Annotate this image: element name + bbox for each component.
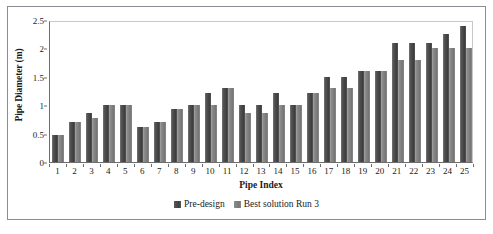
- x-tick-label: 14: [273, 166, 282, 176]
- bar-group: [375, 22, 387, 162]
- x-tick-label: 7: [157, 166, 162, 176]
- bar-group: [460, 22, 472, 162]
- bar-group: [392, 22, 404, 162]
- x-tick-mark: [117, 164, 118, 167]
- x-tick-mark: [253, 164, 254, 167]
- x-tick-mark: [439, 164, 440, 167]
- bar-best-solution: [245, 113, 251, 162]
- x-tick-mark: [303, 164, 304, 167]
- bar-group: [239, 22, 251, 162]
- bar-best-solution: [279, 105, 285, 162]
- x-tick-mark: [473, 164, 474, 167]
- bar-group: [120, 22, 132, 162]
- bar-best-solution: [126, 105, 132, 162]
- bar-best-solution: [75, 122, 81, 162]
- x-tick-label: 20: [375, 166, 384, 176]
- x-tick-mark: [100, 164, 101, 167]
- bar-best-solution: [347, 88, 353, 162]
- y-tick-label: 2.5: [33, 16, 44, 26]
- bar-group: [256, 22, 268, 162]
- legend-swatch-icon: [234, 201, 241, 208]
- bar-best-solution: [432, 48, 438, 162]
- bar-best-solution: [92, 118, 98, 162]
- bar-group: [86, 22, 98, 162]
- x-tick-label: 3: [89, 166, 94, 176]
- x-tick-mark: [456, 164, 457, 167]
- x-tick-label: 1: [55, 166, 60, 176]
- x-tick-mark: [219, 164, 220, 167]
- x-tick-label: 23: [426, 166, 435, 176]
- x-tick-mark: [388, 164, 389, 167]
- legend-swatch-icon: [174, 201, 181, 208]
- bar-best-solution: [466, 48, 472, 162]
- x-tick-label: 2: [72, 166, 77, 176]
- chart-legend: Pre-designBest solution Run 3: [0, 199, 493, 209]
- bar-best-solution: [143, 127, 149, 162]
- x-tick-label: 9: [191, 166, 196, 176]
- bar-series-container: [50, 22, 472, 162]
- x-tick-mark: [151, 164, 152, 167]
- bar-group: [273, 22, 285, 162]
- x-tick-label: 11: [223, 166, 232, 176]
- bar-group: [341, 22, 353, 162]
- bar-best-solution: [364, 71, 370, 162]
- x-tick-mark: [371, 164, 372, 167]
- x-tick-mark: [49, 164, 50, 167]
- x-tick-label: 13: [257, 166, 266, 176]
- x-tick-mark: [337, 164, 338, 167]
- bar-group: [222, 22, 234, 162]
- x-tick-label: 16: [307, 166, 316, 176]
- bar-best-solution: [262, 113, 268, 162]
- y-tick-label: 1.5: [33, 73, 44, 83]
- bar-group: [188, 22, 200, 162]
- x-tick-label: 19: [358, 166, 367, 176]
- bar-best-solution: [177, 109, 183, 162]
- bar-group: [324, 22, 336, 162]
- x-tick-mark: [134, 164, 135, 167]
- bar-group: [103, 22, 115, 162]
- bar-best-solution: [296, 105, 302, 162]
- x-tick-label: 17: [324, 166, 333, 176]
- x-tick-label: 25: [460, 166, 469, 176]
- bar-best-solution: [313, 93, 319, 162]
- bar-best-solution: [415, 60, 421, 162]
- bar-best-solution: [160, 122, 166, 162]
- y-axis-ticks: 00.511.522.5: [20, 21, 47, 163]
- y-tick-mark: [44, 77, 47, 78]
- legend-label: Pre-design: [184, 199, 225, 209]
- legend-item: Best solution Run 3: [234, 199, 319, 209]
- bar-best-solution: [211, 105, 217, 162]
- x-tick-mark: [236, 164, 237, 167]
- x-tick-mark: [185, 164, 186, 167]
- bar-best-solution: [194, 105, 200, 162]
- y-tick-mark: [44, 21, 47, 22]
- bar-group: [409, 22, 421, 162]
- legend-label: Best solution Run 3: [244, 199, 319, 209]
- x-tick-label: 18: [341, 166, 350, 176]
- x-tick-label: 4: [106, 166, 111, 176]
- bar-best-solution: [381, 71, 387, 162]
- bar-group: [290, 22, 302, 162]
- bar-group: [358, 22, 370, 162]
- bar-best-solution: [449, 48, 455, 162]
- x-tick-label: 10: [206, 166, 215, 176]
- x-tick-label: 21: [392, 166, 401, 176]
- x-tick-mark: [320, 164, 321, 167]
- y-tick-mark: [44, 49, 47, 50]
- x-tick-mark: [286, 164, 287, 167]
- x-tick-label: 22: [409, 166, 418, 176]
- x-axis-title: Pipe Index: [49, 180, 473, 190]
- y-tick-label: 0.5: [33, 130, 44, 140]
- bar-group: [171, 22, 183, 162]
- x-tick-label: 8: [174, 166, 179, 176]
- bar-best-solution: [228, 88, 234, 162]
- x-tick-mark: [422, 164, 423, 167]
- x-tick-label: 6: [140, 166, 145, 176]
- x-tick-label: 15: [290, 166, 299, 176]
- x-tick-label: 12: [240, 166, 249, 176]
- plot-area: [49, 21, 473, 163]
- bar-group: [443, 22, 455, 162]
- bar-group: [52, 22, 64, 162]
- x-tick-label: 24: [443, 166, 452, 176]
- bar-group: [69, 22, 81, 162]
